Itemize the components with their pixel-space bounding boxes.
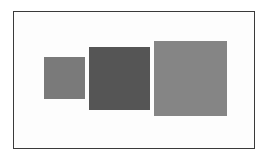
medium-square [89, 47, 150, 110]
large-square [154, 41, 227, 116]
small-square [44, 57, 85, 99]
